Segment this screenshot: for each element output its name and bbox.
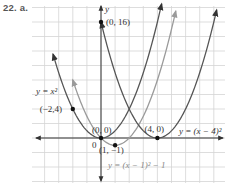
series-label-2: y = (x − 4)² — [178, 126, 222, 136]
point-label-0: (0, 16) — [106, 17, 130, 27]
curves — [53, 4, 217, 145]
point-label-3: (1, −1) — [99, 145, 124, 155]
origin-label: 0 — [92, 140, 97, 150]
parabola-graph: y0(0, 16)(−2,4)(0, 0)(1, −1)(4, 0)y = x²… — [0, 0, 225, 183]
point-0 — [99, 20, 103, 24]
series-label-1: y = (x − 1)² − 1 — [107, 160, 165, 170]
point-1 — [71, 107, 75, 111]
point-4 — [155, 136, 159, 140]
point-label-1: (−2,4) — [40, 104, 62, 114]
series-label-0: y = x² — [35, 86, 58, 96]
point-label-2: (0, 0) — [92, 125, 112, 135]
point-label-4: (4, 0) — [144, 124, 164, 134]
grid — [32, 6, 225, 183]
y-axis-label: y — [104, 4, 109, 14]
point-2 — [99, 136, 103, 140]
